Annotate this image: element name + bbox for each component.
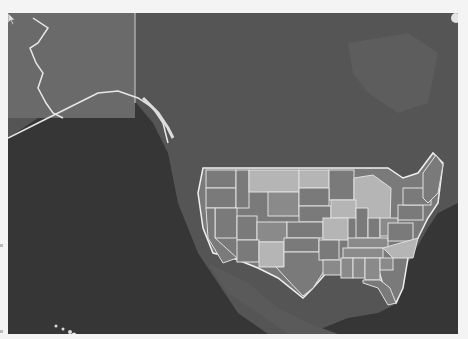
state-montana [249,170,299,192]
state-virginia [388,223,413,241]
state-north-dakota [299,170,329,188]
state-mississippi [341,258,353,278]
alaska-region [8,13,135,118]
state-indiana [368,218,380,238]
state-arizona [237,240,259,262]
state-georgia [365,258,380,280]
state-tennessee [343,248,383,258]
state-new-mexico [259,242,284,267]
state-washington [206,170,236,188]
state-minnesota [329,170,354,200]
state-missouri [323,218,348,240]
left-edge-tick-top [0,244,3,247]
mouse-cursor-icon [8,13,16,25]
state-illinois [356,208,368,238]
state-arkansas [319,240,339,260]
state-nevada [215,208,237,238]
state-pennsylvania [398,205,423,220]
state-south-dakota [299,188,329,206]
state-oklahoma [284,238,319,252]
state-south-carolina [380,258,393,270]
state-alabama [353,258,365,278]
state-louisiana [323,260,341,275]
state-colorado [257,222,287,242]
state-kentucky [348,238,388,248]
state-idaho [236,170,249,208]
map-canvas[interactable]: North America satellite basemap with US … [8,13,458,334]
state-kansas [287,222,323,238]
state-wyoming [268,192,299,216]
state-oregon [206,188,236,208]
state-utah [237,216,257,240]
left-edge-tick-bottom [0,330,3,333]
state-iowa [331,200,356,218]
map-svg [8,13,458,334]
